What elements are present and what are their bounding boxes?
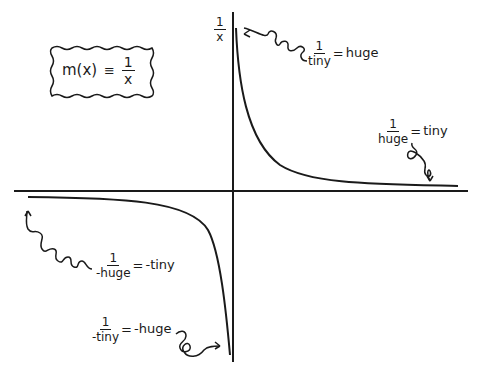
squiggle-arrow-neg-tiny (176, 331, 220, 356)
annotation-equals: = (410, 124, 421, 139)
definition-lhs: m(x) (62, 61, 97, 79)
annotation-equals: = (133, 258, 144, 273)
annotation-result: huge (346, 45, 379, 60)
squiggle-arrow-pos-huge (408, 143, 433, 181)
annotation-denominator: tiny (308, 54, 331, 67)
y-axis-label-numerator: 1 (214, 16, 226, 30)
annotation-neg-huge: 1 -huge =-tiny (96, 252, 175, 279)
annotation-equals: = (333, 46, 344, 61)
annotation-equals: = (121, 322, 132, 337)
y-axis-label-denominator: x (216, 30, 223, 43)
annotation-pos-tiny: 1 tiny =huge (308, 40, 378, 67)
annotation-result: -huge (134, 321, 171, 336)
annotation-denominator: -huge (96, 266, 131, 279)
annotation-result: -tiny (145, 257, 174, 272)
definition-fraction: 1 x (122, 55, 135, 86)
definition-formula: m(x) ≡ 1 x (62, 55, 135, 86)
annotation-numerator: 1 (107, 252, 119, 266)
annotation-pos-huge: 1 huge =tiny (378, 118, 448, 145)
annotation-numerator: 1 (387, 118, 399, 132)
squiggle-arrow-pos-tiny (244, 28, 307, 61)
squiggle-arrow-neg-huge (25, 211, 92, 269)
y-axis-label: 1 x (214, 16, 226, 43)
definition-numerator: 1 (122, 55, 135, 71)
annotation-denominator: -tiny (92, 330, 119, 343)
annotation-denominator: huge (378, 132, 408, 145)
definition-denominator: x (124, 71, 132, 86)
definition-symbol: ≡ (104, 63, 115, 78)
annotation-result: tiny (423, 123, 448, 138)
annotation-neg-tiny: 1 -tiny =-huge (92, 316, 171, 343)
annotation-numerator: 1 (100, 316, 112, 330)
annotation-numerator: 1 (314, 40, 326, 54)
